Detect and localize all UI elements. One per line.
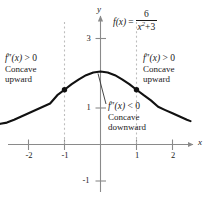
x-tick-label-pos2: 2 <box>168 150 178 160</box>
x-tick-label-neg1: -1 <box>59 150 71 160</box>
formula-fraction: 6 x2+3 <box>136 10 158 33</box>
annotation-center-expression: f″(x) < 0 <box>108 101 146 112</box>
annotation-right-relation: > 0 <box>160 53 175 63</box>
callout-leader-line <box>98 74 106 105</box>
annotation-left-relation: > 0 <box>22 53 37 63</box>
y-axis-label: y <box>97 4 101 14</box>
annotation-right-arg: (x) <box>150 53 161 63</box>
annotation-left-expression: f″(x) > 0 <box>5 53 37 64</box>
formula-lhs: f(x) <box>113 17 126 27</box>
annotation-center-relation: < 0 <box>125 101 140 111</box>
function-formula: f(x) = 6 x2+3 <box>113 10 157 33</box>
annotation-center-line2: Concave <box>108 112 146 122</box>
annotation-right-line3: upward <box>143 74 175 84</box>
annotation-left-line2: Concave <box>5 64 37 74</box>
annotation-center: f″(x) < 0 Concave downward <box>108 101 146 132</box>
annotation-left: f″(x) > 0 Concave upward <box>5 53 37 84</box>
annotation-center-line3: downward <box>108 122 146 132</box>
concavity-figure: y x -2 -1 1 2 3 1 -1 f(x) = 6 x2+3 f″(x)… <box>0 0 210 201</box>
formula-equals: = <box>128 17 133 27</box>
inflection-point-right <box>134 87 139 92</box>
graph-canvas <box>0 0 210 201</box>
y-tick-label-3: 3 <box>84 33 93 43</box>
annotation-left-line3: upward <box>5 74 37 84</box>
annotation-right-expression: f″(x) > 0 <box>143 53 175 64</box>
annotation-right: f″(x) > 0 Concave upward <box>143 53 175 84</box>
x-tick-label-neg2: -2 <box>23 150 35 160</box>
formula-denominator: x2+3 <box>136 21 158 33</box>
x-axis-label: x <box>198 137 202 147</box>
y-tick-label-neg1: -1 <box>79 175 93 185</box>
formula-numerator: 6 <box>141 10 152 20</box>
inflection-point-left <box>62 87 67 92</box>
x-tick-label-pos1: 1 <box>132 150 142 160</box>
annotation-left-arg: (x) <box>12 53 23 63</box>
formula-denominator-constant: 3 <box>150 22 155 32</box>
y-tick-label-1: 1 <box>84 102 93 112</box>
annotation-right-line2: Concave <box>143 64 175 74</box>
annotation-center-arg: (x) <box>115 101 126 111</box>
